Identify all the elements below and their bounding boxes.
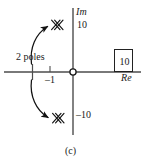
zero-marker-origin: [70, 69, 76, 75]
pole-marker-upper: [52, 20, 63, 29]
imaginary-tick-label-positive: 10: [77, 20, 87, 30]
pole-migration-arrow-lower: [31, 80, 48, 118]
pole-zero-figure: Im 10 –10 Re –1 2 poles 10 (c): [0, 0, 141, 163]
pole-marker-lower: [53, 113, 64, 122]
two-poles-annotation: 2 poles: [16, 52, 45, 62]
real-axis-label: Re: [121, 73, 132, 83]
imaginary-axis-label: Im: [76, 7, 87, 17]
gain-box: 10: [114, 49, 133, 72]
real-axis-tick-label-minus-one: –1: [45, 75, 55, 85]
complex-plane-plot: [0, 0, 141, 163]
gain-box-value: 10: [115, 50, 134, 73]
figure-caption: (c): [0, 145, 141, 156]
imaginary-tick-label-negative: –10: [76, 110, 91, 120]
